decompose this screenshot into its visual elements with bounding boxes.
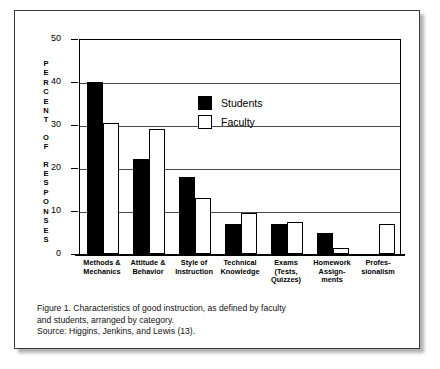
y-tick-label: 20	[37, 162, 61, 172]
y-axis-title-char: S	[39, 235, 53, 244]
bar-faculty	[379, 224, 395, 254]
y-tick-mark	[71, 211, 78, 212]
category-label-line: Instruction	[168, 268, 220, 277]
bar-faculty	[241, 213, 257, 254]
y-axis-title-char: N	[39, 106, 53, 115]
y-tick-label: 50	[37, 33, 61, 43]
y-tick-mark	[71, 82, 78, 83]
y-tick-label: 10	[37, 205, 61, 215]
category-label: Profes-sionalism	[352, 259, 404, 276]
bar-students	[271, 224, 287, 254]
bars-layer	[80, 40, 400, 254]
bar-students	[87, 82, 103, 254]
y-tick-mark	[71, 39, 78, 40]
legend-item-faculty: Faculty	[198, 113, 302, 130]
category-label-line: Knowledge	[214, 268, 266, 277]
bar-students	[317, 233, 333, 255]
category-label: Methods &Mechanics	[76, 259, 128, 276]
bar-group	[172, 40, 218, 254]
bar-group	[264, 40, 310, 254]
chart-legend: Students Faculty	[198, 94, 302, 132]
bar-group	[356, 40, 402, 254]
y-axis-title-char: E	[39, 226, 53, 235]
category-label: Attitude &Behavior	[122, 259, 174, 276]
y-axis-title-char	[39, 152, 53, 160]
y-axis-title-char: P	[39, 188, 53, 197]
bar-faculty	[149, 129, 165, 254]
chart-region: PERCENTOFRESPONSES 01020304050 Students …	[15, 11, 419, 293]
category-label: HomeworkAssign-ments	[306, 259, 358, 285]
bar-faculty	[195, 198, 211, 254]
bar-faculty	[103, 123, 119, 254]
category-axis-labels: Methods &MechanicsAttitude &BehaviorStyl…	[79, 259, 401, 295]
y-axis-title-char: O	[39, 133, 53, 142]
y-axis-title-char: S	[39, 216, 53, 225]
caption-line-2: and students, arranged by category.	[37, 315, 397, 327]
y-tick-mark	[71, 125, 78, 126]
y-tick-label: 30	[37, 119, 61, 129]
legend-item-students: Students	[198, 94, 302, 111]
category-label-line: Quizzes)	[260, 276, 312, 285]
caption-line-3: Source: Higgins, Jenkins, and Lewis (13)…	[37, 326, 397, 338]
legend-swatch-faculty-icon	[198, 115, 212, 129]
legend-label-faculty: Faculty	[221, 116, 255, 128]
y-axis-title-char: E	[39, 97, 53, 106]
category-label-line: sionalism	[352, 268, 404, 277]
bar-students	[179, 177, 195, 254]
category-label: Exams(Tests,Quizzes)	[260, 259, 312, 285]
category-label-line: Behavior	[122, 268, 174, 277]
bar-faculty	[333, 248, 349, 254]
caption-line-1: Figure 1. Characteristics of good instru…	[37, 303, 397, 315]
bar-group	[310, 40, 356, 254]
y-axis-title-char: F	[39, 142, 53, 151]
y-tick-label: 0	[37, 248, 61, 258]
bar-students	[225, 224, 241, 254]
x-axis-baseline	[75, 254, 405, 256]
bar-faculty	[287, 222, 303, 254]
bar-group	[126, 40, 172, 254]
y-tick-label: 40	[37, 76, 61, 86]
category-label: Style ofInstruction	[168, 259, 220, 276]
y-axis-title: PERCENTOFRESPONSES	[39, 59, 53, 244]
legend-swatch-students-icon	[198, 96, 212, 110]
bar-group	[80, 40, 126, 254]
figure-caption: Figure 1. Characteristics of good instru…	[37, 303, 397, 338]
bar-students	[133, 159, 149, 254]
y-tick-mark	[71, 168, 78, 169]
legend-label-students: Students	[221, 97, 262, 109]
y-axis-title-char: P	[39, 59, 53, 68]
category-label-line: ments	[306, 276, 358, 285]
category-label-line: Mechanics	[76, 268, 128, 277]
category-label: TechnicalKnowledge	[214, 259, 266, 276]
y-axis-title-char: C	[39, 87, 53, 96]
figure-frame: PERCENTOFRESPONSES 01020304050 Students …	[14, 10, 420, 349]
bar-group	[218, 40, 264, 254]
y-axis-title-char: S	[39, 178, 53, 187]
plot-area: Students Faculty	[79, 39, 401, 254]
